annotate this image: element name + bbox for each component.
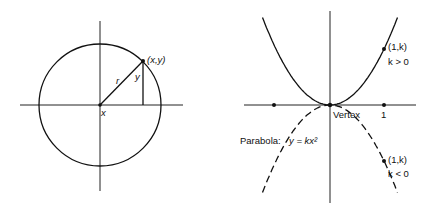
lower-point-label: (1,k): [388, 154, 407, 165]
minus-one-tick-point: [272, 103, 276, 107]
lower-condition-label: k < 0: [388, 168, 409, 179]
diagram-canvas: (x,y) r y x (1,k) k > 0 Vertex 1 Parabol…: [0, 0, 430, 215]
vertex-label: Vertex: [333, 109, 360, 120]
vertex-point: [328, 103, 332, 107]
upper-condition-label: k > 0: [388, 56, 409, 67]
base-label: x: [100, 107, 107, 118]
height-label: y: [134, 71, 141, 82]
equation-prefix: Parabola:: [240, 135, 281, 146]
parabola-diagram: (1,k) k > 0 Vertex 1 Parabola: y = kx² (…: [240, 11, 416, 203]
upper-point-1k: [382, 47, 386, 51]
circle-diagram: (x,y) r y x: [20, 21, 183, 191]
lower-point-1k: [382, 159, 386, 163]
one-tick-point: [382, 103, 386, 107]
equation-label: y = kx²: [288, 135, 318, 146]
unit-tick-label: 1: [381, 109, 386, 120]
radius-line: [100, 61, 143, 105]
point-xy: [141, 59, 145, 63]
upper-point-label: (1,k): [388, 41, 407, 52]
point-xy-label: (x,y): [147, 54, 165, 65]
